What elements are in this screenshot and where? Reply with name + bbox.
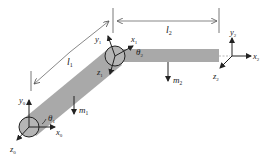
svg-text:y2: y2 — [229, 27, 237, 38]
svg-text:x0: x0 — [55, 127, 63, 138]
frame-2: y2 x2 z2 — [212, 27, 260, 82]
mass-2-arrow: m2 — [168, 62, 183, 86]
link-2 — [115, 49, 219, 62]
svg-text:y0: y0 — [18, 95, 26, 106]
svg-text:l1: l1 — [67, 56, 73, 68]
svg-text:l2: l2 — [166, 24, 172, 36]
two-link-arm-diagram: l1 l2 m1 m2 y0 x0 z0 θ1 y1 x1 z1 θ2 — [0, 0, 275, 163]
svg-text:m1: m1 — [79, 105, 89, 116]
l2-dimension: l2 — [117, 8, 219, 36]
svg-text:x2: x2 — [252, 51, 260, 62]
svg-text:x1: x1 — [130, 34, 138, 45]
svg-text:θ2: θ2 — [136, 47, 143, 58]
svg-text:m2: m2 — [173, 75, 183, 86]
svg-text:z0: z0 — [9, 144, 16, 155]
svg-text:z2: z2 — [212, 71, 219, 82]
svg-text:y1: y1 — [94, 34, 102, 45]
